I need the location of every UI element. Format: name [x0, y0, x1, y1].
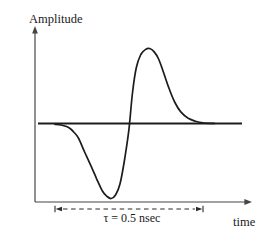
dimension-right-arrow-icon	[196, 207, 202, 212]
y-axis-arrow-icon	[32, 26, 38, 34]
waveform-plot	[0, 0, 266, 236]
x-axis-arrow-icon	[244, 199, 252, 205]
amplitude-axis-label: Amplitude	[29, 12, 82, 26]
pulse-waveform-figure: Amplitude τ = 0.5 nsec time	[0, 0, 266, 236]
time-axis-label: time	[233, 215, 255, 229]
tau-duration-label: τ = 0.5 nsec	[90, 211, 174, 225]
dimension-left-arrow-icon	[56, 207, 62, 212]
